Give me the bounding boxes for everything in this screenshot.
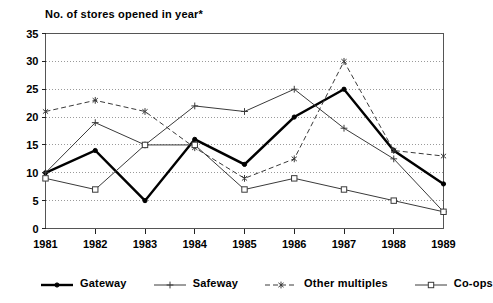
svg-text:1983: 1983 <box>133 238 157 250</box>
svg-text:35: 35 <box>26 28 38 40</box>
svg-text:20: 20 <box>26 111 38 123</box>
legend-item-co-ops: Co-ops <box>414 277 493 289</box>
svg-text:1989: 1989 <box>431 238 455 250</box>
svg-text:0: 0 <box>32 223 38 235</box>
series-safeway <box>42 86 447 215</box>
legend-label-co-ops: Co-ops <box>454 277 493 289</box>
svg-text:1984: 1984 <box>183 238 208 250</box>
legend-swatch-gateway <box>40 277 74 289</box>
svg-text:10: 10 <box>26 167 38 179</box>
svg-text:1987: 1987 <box>332 238 356 250</box>
data-series-layer <box>42 58 447 215</box>
svg-text:1988: 1988 <box>382 238 406 250</box>
svg-text:15: 15 <box>26 139 38 151</box>
svg-text:25: 25 <box>26 83 38 95</box>
svg-text:1985: 1985 <box>232 238 256 250</box>
svg-text:1982: 1982 <box>83 238 107 250</box>
legend-swatch-other-multiples <box>264 277 298 289</box>
legend-label-safeway: Safeway <box>193 277 238 289</box>
legend-item-other-multiples: Other multiples <box>264 277 388 289</box>
legend-item-gateway: Gateway <box>40 277 127 289</box>
legend-item-safeway: Safeway <box>153 277 238 289</box>
legend-swatch-co-ops <box>414 277 448 289</box>
y-axis: 05101520253035 <box>26 28 45 235</box>
svg-text:1981: 1981 <box>33 238 57 250</box>
legend-label-other-multiples: Other multiples <box>304 277 388 289</box>
svg-text:5: 5 <box>32 195 38 207</box>
legend-label-gateway: Gateway <box>80 277 127 289</box>
legend-swatch-safeway <box>153 277 187 289</box>
svg-text:1986: 1986 <box>282 238 306 250</box>
svg-text:30: 30 <box>26 55 38 67</box>
plot-frame <box>46 34 444 229</box>
x-axis: 198119821983198419851986198719881989 <box>33 229 455 250</box>
chart-legend: Gateway Safeway Other multiples Co-ops <box>40 272 460 294</box>
